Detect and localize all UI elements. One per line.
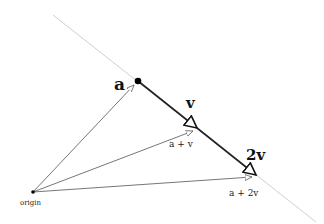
label-a-plus-v: a + v	[169, 139, 194, 149]
vector-line-diagram: a v 2v a + v a + 2v origin	[0, 0, 324, 224]
point-a-dot	[135, 78, 142, 85]
origin-dot	[31, 190, 35, 194]
label-a: a	[114, 74, 125, 94]
label-2v: 2v	[246, 146, 266, 164]
label-v: v	[185, 94, 196, 112]
label-a-plus-2v: a + 2v	[229, 188, 259, 198]
vector-a-arrow	[33, 85, 134, 192]
label-origin: origin	[20, 199, 42, 207]
